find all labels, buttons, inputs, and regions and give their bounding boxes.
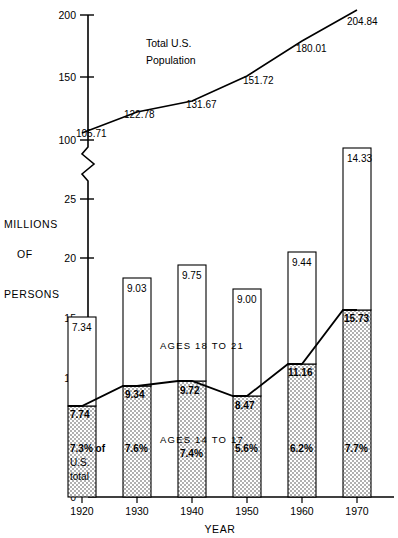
x-tick-1950: 1950 xyxy=(235,505,259,517)
x-axis-title: YEAR xyxy=(205,523,236,535)
percent-label-1970: 7.7% xyxy=(345,443,368,454)
population-value-1960: 180.01 xyxy=(296,43,327,54)
y-tick-100: 100 xyxy=(58,134,76,146)
x-axis-ticks xyxy=(82,497,357,503)
x-tick-1920: 1920 xyxy=(70,505,94,517)
percent-label-1930: 7.6% xyxy=(125,443,148,454)
ages-14-17-value-1940: 9.72 xyxy=(180,385,200,396)
y-tick-150: 150 xyxy=(58,71,76,83)
band-label-ages-18-21: AGES 18 TO 21 xyxy=(160,340,244,351)
percent-label-1960: 6.2% xyxy=(290,443,313,454)
y-axis-title-line-1: MILLIONS xyxy=(4,218,58,230)
band-label-ages-14-17: AGES 14 TO 17 xyxy=(160,434,244,445)
population-value-1950: 151.72 xyxy=(243,75,274,86)
bar-shaded-1960 xyxy=(288,364,316,497)
x-tick-1930: 1930 xyxy=(125,505,149,517)
population-chart-svg: 200 150 100 25 20 15 10 5 0 MILLIONS OF … xyxy=(0,0,398,538)
series-label-line-2: Population xyxy=(146,54,196,66)
bar-group-1930 xyxy=(123,278,151,497)
ages-14-17-value-1920: 7.74 xyxy=(70,409,90,420)
percent-annotation-line-2: U.S. xyxy=(70,457,89,468)
population-value-1940: 131.67 xyxy=(186,99,217,110)
ages-18-21-value-1920: 7.34 xyxy=(72,322,92,333)
ages-18-21-value-1930: 9.03 xyxy=(127,283,147,294)
bar-group-1950 xyxy=(233,289,261,497)
x-tick-1960: 1960 xyxy=(290,505,314,517)
bar-shaded-1970 xyxy=(343,310,371,497)
y-tick-200: 200 xyxy=(58,9,76,21)
percent-label-1920: 7.3% of xyxy=(70,443,106,454)
ages-14-17-value-1930: 9.34 xyxy=(125,389,145,400)
ages-18-21-value-1950: 9.00 xyxy=(237,294,257,305)
bar-open-1930 xyxy=(123,278,151,386)
population-value-1930: 122.78 xyxy=(124,109,155,120)
bar-shaded-1930 xyxy=(123,386,151,497)
bar-group-1920 xyxy=(68,317,96,497)
percent-label-1940: 7.4% xyxy=(180,448,203,459)
series-label-line-1: Total U.S. xyxy=(146,37,192,49)
population-value-1920: 105.71 xyxy=(76,128,107,139)
ages-14-17-value-1950: 8.47 xyxy=(235,400,255,411)
y-tick-20: 20 xyxy=(64,252,76,264)
population-value-1970: 204.84 xyxy=(347,16,378,27)
y-axis-title-line-3: PERSONS xyxy=(4,288,60,300)
ages-18-21-value-1960: 9.44 xyxy=(292,257,312,268)
x-tick-1970: 1970 xyxy=(345,505,369,517)
bar-open-1960 xyxy=(288,252,316,364)
bar-open-1970 xyxy=(343,148,371,310)
ages-18-21-value-1970: 14.33 xyxy=(347,153,372,164)
percent-annotation-line-3: total xyxy=(70,471,89,482)
bar-open-1940 xyxy=(178,265,206,381)
y-axis-title-line-2: OF xyxy=(17,248,33,260)
chart-container: 200 150 100 25 20 15 10 5 0 MILLIONS OF … xyxy=(0,0,398,538)
ages-14-17-value-1960: 11.16 xyxy=(288,367,313,378)
y-tick-25: 25 xyxy=(64,193,76,205)
ages-18-21-value-1940: 9.75 xyxy=(182,270,202,281)
ages-14-17-value-1970: 15.73 xyxy=(344,313,369,324)
x-tick-1940: 1940 xyxy=(180,505,204,517)
